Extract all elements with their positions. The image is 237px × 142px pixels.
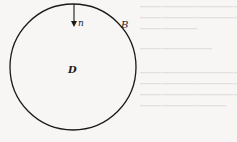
boundary-label: B (120, 19, 128, 30)
normal-label: n (78, 18, 84, 28)
region-label: D (67, 64, 77, 75)
region-diagram: n B D (0, 0, 237, 142)
arrowhead-icon (71, 21, 77, 27)
